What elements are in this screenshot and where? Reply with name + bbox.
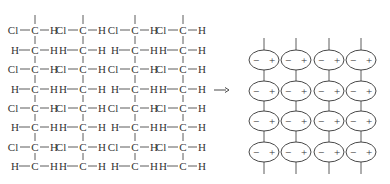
positive-charge-icon: + [301, 146, 307, 158]
negative-charge-icon: − [253, 115, 259, 127]
hydrogen-atom: H [198, 63, 206, 75]
carbon-atom: C [131, 102, 138, 114]
hydrogen-atom: H [198, 160, 206, 172]
polymer-chain: ClCHHCHClCHHCHClCHHCHClCHHCH [156, 15, 206, 172]
atom-label: Cl [8, 24, 18, 36]
atom-label: H [111, 160, 119, 172]
carbon-atom: C [179, 44, 186, 56]
negative-charge-icon: − [318, 54, 324, 66]
dipole: −+ [281, 142, 311, 162]
negative-charge-icon: − [350, 85, 356, 97]
positive-charge-icon: + [269, 54, 275, 66]
carbon-atom: C [31, 63, 38, 75]
negative-charge-icon: − [318, 146, 324, 158]
atom-label: H [11, 44, 19, 56]
negative-charge-icon: − [253, 146, 259, 158]
polymer-chain: ClCHHCHClCHHCHClCHHCHClCHHCH [108, 15, 158, 172]
polymer-chain: ClCHHCHClCHHCHClCHHCHClCHHCH [56, 15, 106, 172]
dipole-column: −+−+−+−+ [249, 38, 279, 174]
hydrogen-atom: H [98, 44, 106, 56]
atom-label: H [111, 121, 119, 133]
carbon-atom: C [131, 160, 138, 172]
atom-label: Cl [56, 63, 66, 75]
diagram-canvas: ClCHHCHClCHHCHClCHHCHClCHHCHClCHHCHClCHH… [0, 0, 390, 184]
hydrogen-atom: H [98, 83, 106, 95]
positive-charge-icon: + [366, 115, 372, 127]
hydrogen-atom: H [198, 44, 206, 56]
hydrogen-atom: H [198, 141, 206, 153]
negative-charge-icon: − [350, 115, 356, 127]
atom-label: Cl [156, 102, 166, 114]
hydrogen-atom: H [198, 121, 206, 133]
atom-label: H [159, 160, 167, 172]
negative-charge-icon: − [253, 85, 259, 97]
dipole-column: −+−+−+−+ [314, 38, 344, 174]
atom-label: H [111, 83, 119, 95]
atom-label: Cl [8, 141, 18, 153]
negative-charge-icon: − [350, 146, 356, 158]
carbon-atom: C [179, 102, 186, 114]
transformation-arrow [214, 88, 229, 93]
hydrogen-atom: H [150, 44, 158, 56]
hydrogen-atom: H [198, 102, 206, 114]
atom-label: Cl [156, 141, 166, 153]
carbon-atom: C [31, 141, 38, 153]
atom-label: H [59, 44, 67, 56]
positive-charge-icon: + [269, 115, 275, 127]
hydrogen-atom: H [98, 63, 106, 75]
atom-label: H [59, 83, 67, 95]
carbon-atom: C [179, 121, 186, 133]
carbon-atom: C [131, 83, 138, 95]
hydrogen-atom: H [150, 83, 158, 95]
carbon-atom: C [31, 102, 38, 114]
pvc-dipole-diagram: ClCHHCHClCHHCHClCHHCHClCHHCHClCHHCHClCHH… [0, 0, 390, 184]
carbon-atom: C [31, 24, 38, 36]
polymer-chains-panel: ClCHHCHClCHHCHClCHHCHClCHHCHClCHHCHClCHH… [8, 15, 206, 172]
hydrogen-atom: H [98, 24, 106, 36]
negative-charge-icon: − [285, 85, 291, 97]
atom-label: H [11, 121, 19, 133]
atom-label: Cl [108, 141, 118, 153]
hydrogen-atom: H [198, 24, 206, 36]
carbon-atom: C [79, 24, 86, 36]
dipole: −+ [314, 142, 344, 162]
atom-label: H [159, 121, 167, 133]
carbon-atom: C [131, 44, 138, 56]
carbon-atom: C [131, 141, 138, 153]
atom-label: Cl [56, 102, 66, 114]
carbon-atom: C [79, 160, 86, 172]
atom-label: H [159, 44, 167, 56]
hydrogen-atom: H [98, 141, 106, 153]
carbon-atom: C [179, 63, 186, 75]
carbon-atom: C [131, 63, 138, 75]
atom-label: Cl [108, 63, 118, 75]
hydrogen-atom: H [198, 83, 206, 95]
positive-charge-icon: + [334, 115, 340, 127]
dipole: −+ [346, 111, 376, 131]
atom-label: Cl [156, 63, 166, 75]
hydrogen-atom: H [50, 83, 58, 95]
carbon-atom: C [131, 121, 138, 133]
hydrogen-atom: H [50, 160, 58, 172]
atom-label: Cl [56, 141, 66, 153]
carbon-atom: C [31, 160, 38, 172]
negative-charge-icon: − [350, 54, 356, 66]
carbon-atom: C [179, 83, 186, 95]
positive-charge-icon: + [334, 85, 340, 97]
dipole: −+ [314, 50, 344, 70]
dipole: −+ [346, 50, 376, 70]
hydrogen-atom: H [150, 121, 158, 133]
positive-charge-icon: + [301, 115, 307, 127]
atom-label: H [59, 121, 67, 133]
hydrogen-atom: H [98, 160, 106, 172]
dipole: −+ [249, 81, 279, 101]
carbon-atom: C [79, 44, 86, 56]
positive-charge-icon: + [334, 146, 340, 158]
carbon-atom: C [31, 83, 38, 95]
hydrogen-atom: H [98, 102, 106, 114]
dipole: −+ [249, 50, 279, 70]
positive-charge-icon: + [366, 85, 372, 97]
positive-charge-icon: + [301, 54, 307, 66]
carbon-atom: C [79, 141, 86, 153]
dipole: −+ [346, 142, 376, 162]
